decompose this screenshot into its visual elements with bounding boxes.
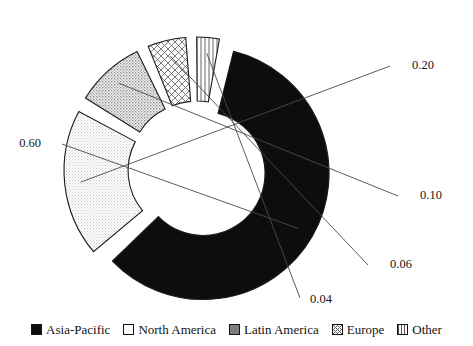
legend-swatch-solid-black	[31, 324, 42, 335]
legend-item-europe[interactable]: Europe	[332, 323, 385, 336]
legend-swatch-diamond-crosshatch	[332, 324, 343, 335]
legend-label-other: Other	[412, 323, 442, 336]
value-label-europe: 0.06	[390, 257, 412, 271]
value-label-north-america: 0.20	[412, 58, 434, 72]
pie-slice-other[interactable]	[197, 37, 220, 102]
legend-swatch-medium-stipple	[229, 324, 240, 335]
legend-label-asia-pacific: Asia-Pacific	[46, 323, 110, 336]
legend-label-europe: Europe	[347, 323, 385, 336]
pie-slice-latin-america[interactable]	[85, 52, 165, 132]
chart-container: 0.600.200.100.060.04 Asia-Pacific North …	[0, 0, 473, 346]
legend-item-asia-pacific[interactable]: Asia-Pacific	[31, 323, 110, 336]
pie-slice-north-america[interactable]	[64, 112, 143, 252]
legend-swatch-vertical-hatch	[397, 324, 408, 335]
chart-legend: Asia-Pacific North America Latin America…	[0, 318, 473, 340]
legend-label-north-america: North America	[138, 323, 216, 336]
value-label-other: 0.04	[310, 292, 333, 306]
legend-label-latin-america: Latin America	[244, 323, 319, 336]
value-label-latin-america: 0.10	[420, 188, 442, 202]
value-label-asia-pacific: 0.60	[19, 136, 41, 150]
legend-item-latin-america[interactable]: Latin America	[229, 323, 319, 336]
legend-item-other[interactable]: Other	[397, 323, 442, 336]
legend-item-north-america[interactable]: North America	[123, 323, 216, 336]
legend-swatch-light-stipple	[123, 324, 134, 335]
donut-chart: 0.600.200.100.060.04	[0, 0, 473, 346]
